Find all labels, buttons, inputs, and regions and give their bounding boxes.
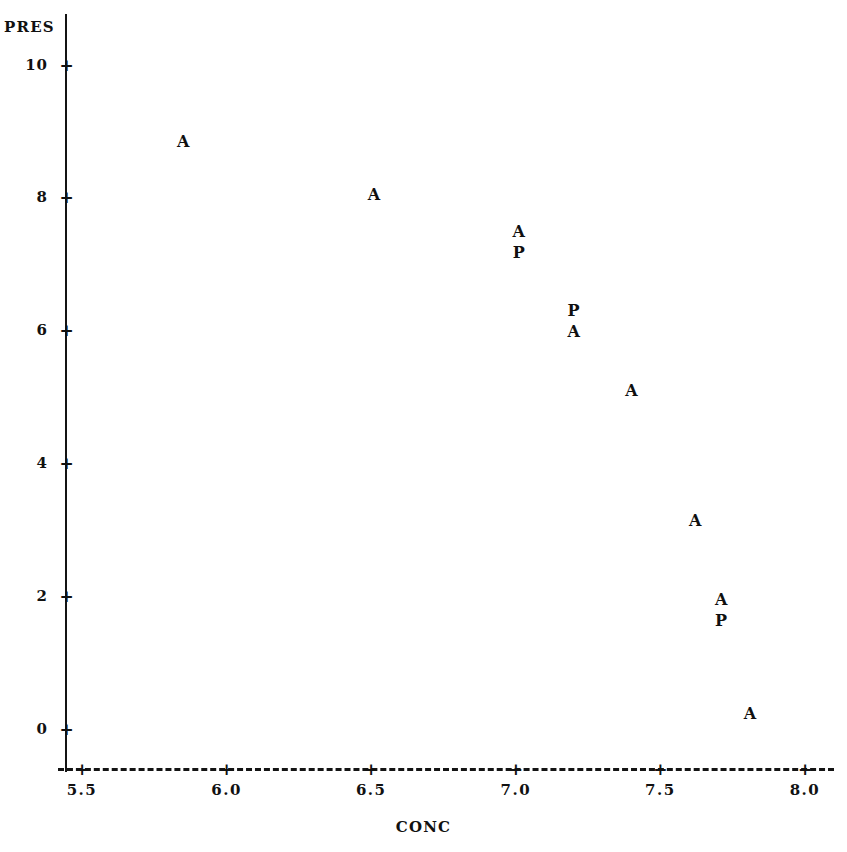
x-tick-mark: +	[508, 761, 524, 777]
data-point-a: A	[741, 705, 759, 723]
y-tick-mark: +	[59, 58, 74, 73]
x-tick-mark: +	[652, 761, 668, 777]
y-tick-mark: +	[59, 589, 74, 604]
y-tick-label: 2	[4, 589, 48, 604]
data-point-p: P	[510, 244, 528, 262]
data-point-a: A	[174, 133, 192, 151]
y-tick-label: 10	[4, 58, 48, 73]
y-tick-mark: +	[59, 323, 74, 338]
y-tick-label: 8	[4, 190, 48, 205]
y-tick-label: 0	[4, 722, 48, 737]
y-axis-title: PRES	[4, 18, 55, 36]
data-point-a: A	[622, 382, 640, 400]
data-point-p: P	[565, 302, 583, 320]
x-tick-mark: +	[797, 761, 813, 777]
x-tick-label: 8.0	[770, 782, 840, 798]
data-point-a: A	[565, 323, 583, 341]
x-axis-title: CONC	[0, 818, 847, 836]
x-axis-line	[58, 768, 834, 771]
y-tick-label: 6	[4, 323, 48, 338]
x-tick-label: 6.5	[336, 782, 406, 798]
data-point-p: P	[712, 612, 730, 630]
y-axis-line	[65, 14, 67, 772]
data-point-a: A	[686, 512, 704, 530]
scatter-plot-canvas: PRES +0+2+4+6+8+10 +5.5+6.0+6.5+7.0+7.5+…	[0, 0, 847, 852]
y-tick-mark: +	[59, 190, 74, 205]
y-tick-mark: +	[59, 456, 74, 471]
data-point-a: A	[510, 223, 528, 241]
x-tick-mark: +	[219, 761, 235, 777]
y-tick-mark: +	[59, 722, 74, 737]
x-tick-label: 7.5	[625, 782, 695, 798]
x-tick-label: 7.0	[481, 782, 551, 798]
x-tick-mark: +	[74, 761, 90, 777]
y-tick-label: 4	[4, 456, 48, 471]
data-point-a: A	[365, 186, 383, 204]
data-point-a: A	[712, 591, 730, 609]
x-tick-label: 5.5	[47, 782, 117, 798]
x-tick-label: 6.0	[192, 782, 262, 798]
x-tick-mark: +	[363, 761, 379, 777]
